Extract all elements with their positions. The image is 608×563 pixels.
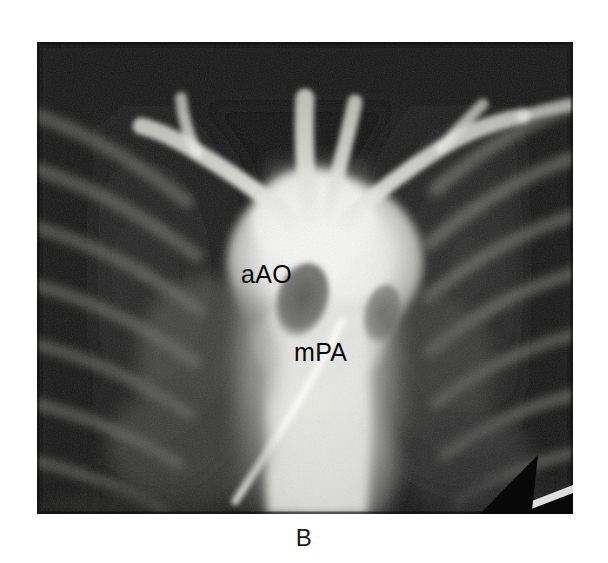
panel-letter: B (0, 524, 608, 552)
film-grain (37, 42, 573, 514)
figure-root: aAO mPA B (0, 0, 608, 563)
label-ascending-aorta: aAO (241, 262, 292, 287)
angiogram-image: aAO mPA (37, 42, 573, 514)
label-main-pulmonary-artery: mPA (294, 340, 347, 365)
angiogram-canvas (37, 42, 573, 514)
